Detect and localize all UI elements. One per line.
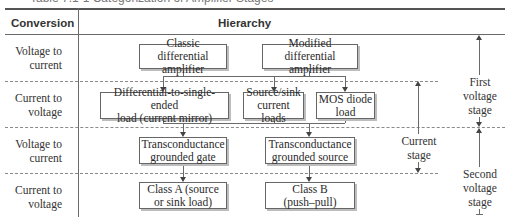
stage-text: Current xyxy=(396,134,442,148)
current-stage-label: Current stage xyxy=(396,134,442,162)
box-transconductance-grounded-source: Transconductancegrounded source xyxy=(265,137,355,164)
arrow-up-icon xyxy=(476,128,482,133)
box-classic-differential-amplifier: Classic differentialamplifier xyxy=(139,44,227,69)
box-text: Class B xyxy=(283,183,336,196)
span-end-tick xyxy=(476,214,483,215)
connector xyxy=(345,76,346,87)
box-text: or sink load) xyxy=(147,196,219,209)
stage-text: stage xyxy=(455,195,505,209)
row-label-2: Current to voltage xyxy=(6,91,62,119)
box-text: Modified differential xyxy=(263,37,357,63)
box-text: load xyxy=(319,106,372,119)
row-divider-2 xyxy=(5,127,505,128)
box-text: MOS diode xyxy=(319,93,372,106)
row-label-3-line1: Voltage to xyxy=(6,137,62,151)
stage-text: voltage xyxy=(455,181,505,195)
first-voltage-stage-label: First voltage stage xyxy=(457,75,503,117)
box-text: amplifier xyxy=(263,63,357,76)
row-divider-3 xyxy=(5,173,438,174)
stage-text: stage xyxy=(396,148,442,162)
connector xyxy=(183,163,184,177)
row-label-4-line1: Current to xyxy=(6,183,62,197)
arrow-down-icon xyxy=(415,168,421,173)
header-hierarchy: Hierarchy xyxy=(218,17,271,29)
row-label-1-line2: current xyxy=(6,58,62,72)
row-divider-1 xyxy=(5,81,438,82)
row-label-4: Current to voltage xyxy=(6,183,62,211)
header-conversion: Conversion xyxy=(11,17,74,29)
column-divider xyxy=(78,8,79,217)
box-text: Differential-to-single-ended xyxy=(101,86,228,112)
box-class-b: Class B(push–pull) xyxy=(265,182,355,209)
box-text: amplifier xyxy=(140,63,226,76)
box-text: current loads xyxy=(244,99,303,125)
box-text: Transconductance xyxy=(268,138,351,151)
row-label-1: Voltage to current xyxy=(6,44,62,72)
connector xyxy=(163,76,346,77)
box-text: Classic differential xyxy=(140,37,226,63)
box-class-a: Class A (sourceor sink load) xyxy=(139,182,227,209)
stage-text: stage xyxy=(457,103,503,117)
stage-text: First xyxy=(457,75,503,89)
connector xyxy=(309,163,310,177)
box-text: grounded source xyxy=(268,151,351,164)
box-text: Source/sink xyxy=(244,86,303,99)
arrow-down-icon xyxy=(476,122,482,127)
arrow-up-icon xyxy=(415,81,421,86)
top-rule xyxy=(5,8,505,10)
box-mos-diode-load: MOS diodeload xyxy=(316,92,375,119)
box-text: grounded gate xyxy=(141,151,224,164)
connector xyxy=(309,123,310,132)
box-text: Class A (source xyxy=(147,183,219,196)
row-label-3: Voltage to current xyxy=(6,137,62,165)
stage-text: voltage xyxy=(457,89,503,103)
box-differential-to-single-ended-load: Differential-to-single-endedload (curren… xyxy=(100,92,229,119)
row-label-2-line1: Current to xyxy=(6,91,62,105)
box-transconductance-grounded-gate: Transconductancegrounded gate xyxy=(139,137,227,164)
box-text: load (current mirror) xyxy=(101,112,228,125)
row-label-3-line2: current xyxy=(6,151,62,165)
header-rule xyxy=(5,34,505,35)
box-text: (push–pull) xyxy=(283,196,336,209)
box-source-sink-current-loads: Source/sinkcurrent loads xyxy=(243,92,304,119)
row-label-2-line2: voltage xyxy=(6,105,62,119)
second-voltage-stage-label: Second voltage stage xyxy=(455,167,505,209)
stage-text: Second xyxy=(455,167,505,181)
box-text: Transconductance xyxy=(141,138,224,151)
row-label-1-line1: Voltage to xyxy=(6,44,62,58)
arrow-up-icon xyxy=(476,35,482,40)
box-modified-differential-amplifier: Modified differentialamplifier xyxy=(262,44,358,69)
row-label-4-line2: voltage xyxy=(6,197,62,211)
table-caption: Table 7.1-1 Categorization of Amplifier … xyxy=(30,0,273,5)
